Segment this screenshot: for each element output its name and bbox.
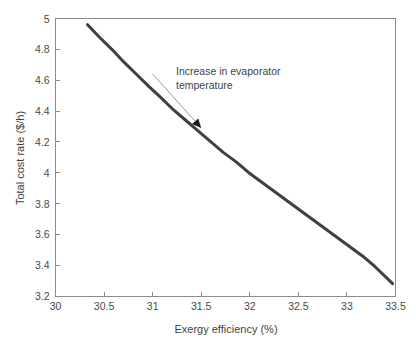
exergy-cost-rate-chart: 3030.53131.53232.53333.5 3.23.43.63.844.…: [0, 0, 416, 348]
plot-axes-box: [56, 19, 396, 297]
x-tick-label: 33.5: [385, 300, 406, 312]
y-tick-label: 4.8: [35, 43, 50, 55]
y-axis-ticks: [56, 19, 60, 297]
x-tick-label: 32.5: [288, 300, 309, 312]
y-tick-label: 3.4: [35, 259, 50, 271]
y-tick-label: 5: [44, 13, 50, 25]
y-tick-label: 4.4: [35, 105, 50, 117]
y-tick-label: 3.2: [35, 290, 50, 302]
y-tick-label: 4.6: [35, 74, 50, 86]
pareto-front-curve: [88, 25, 393, 284]
annotation-text-line-2: temperature: [176, 79, 233, 91]
x-tick-label: 31.5: [191, 300, 212, 312]
x-tick-label: 30: [50, 300, 62, 312]
x-axis-ticks: [56, 292, 396, 296]
x-tick-label: 31: [147, 300, 159, 312]
x-axis-title: Exergy efficiency (%): [174, 323, 277, 335]
annotation-text-line-1: Increase in evaporator: [176, 65, 281, 77]
y-tick-label: 3.6: [35, 228, 50, 240]
y-axis-tick-labels: 3.23.43.63.844.24.44.64.85: [35, 13, 50, 303]
x-tick-label: 32: [244, 300, 256, 312]
chart-figure: 3030.53131.53232.53333.5 3.23.43.63.844.…: [0, 0, 416, 348]
x-tick-label: 30.5: [94, 300, 115, 312]
y-tick-label: 4.2: [35, 136, 50, 148]
y-tick-label: 4: [44, 167, 50, 179]
y-axis-title: Total cost rate ($/h): [14, 111, 26, 205]
y-tick-label: 3.8: [35, 198, 50, 210]
x-axis-tick-labels: 3030.53131.53232.53333.5: [50, 300, 406, 312]
x-tick-label: 33: [341, 300, 353, 312]
